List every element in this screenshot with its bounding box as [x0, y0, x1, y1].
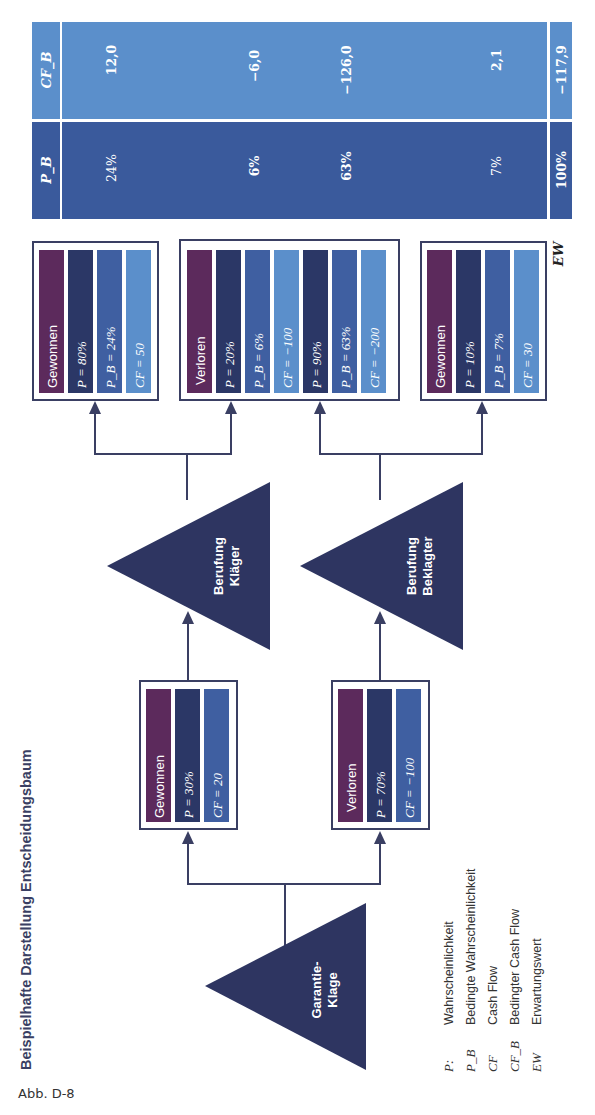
probability-value: P = 80% — [74, 341, 89, 389]
legend-text: Wahrscheinlichkeit — [442, 921, 456, 1025]
legend-symbol: P: — [441, 1060, 456, 1073]
arrow-up-icon — [476, 401, 488, 414]
connectors-level2 — [94, 412, 483, 500]
arrow-up-icon — [89, 401, 101, 414]
legend-text: Cash Flow — [486, 965, 500, 1025]
table-cfb-value: −6,0 — [247, 50, 262, 83]
outcome-label: Gewonnen — [45, 325, 60, 388]
table-header-pb: P_B — [39, 156, 55, 184]
cash-flow-value: CF = 20 — [210, 773, 225, 818]
conditional-probability-value: P_B = 6% — [251, 333, 266, 389]
probability-value: P = 90% — [309, 341, 324, 389]
arrow-up-icon — [182, 611, 194, 624]
probability-value: P = 20% — [222, 341, 237, 389]
results-table: CF_B P_B 12,0 24% −6,0 6% −126,0 63% 2,1… — [32, 22, 572, 267]
outcome-box-first-instance-won: Gewonnen P = 30% CF = 20 — [140, 681, 237, 829]
table-pb-value: 63% — [339, 151, 354, 180]
table-pb-value: 24% — [104, 154, 119, 182]
outcome-box-appeal-plaintiff-won: Gewonnen P = 80% P_B = 24% CF = 50 — [33, 242, 158, 400]
outcome-box-first-instance-lost: Verloren P = 70% CF = −100 — [332, 681, 429, 829]
probability-value: P = 10% — [462, 341, 477, 389]
arrow-up-icon — [314, 401, 326, 414]
node-label: Klage — [325, 972, 340, 1007]
table-total-pb: 100% — [554, 151, 569, 189]
legend-symbol: EW — [529, 1052, 544, 1073]
table-pb-value: 6% — [247, 156, 262, 177]
legend-text: Bedingte Wahrscheinlichkeit — [464, 868, 478, 1025]
conditional-probability-value: P_B = 7% — [491, 333, 506, 389]
node-label: Berufung — [211, 537, 226, 595]
cash-flow-value: CF = −100 — [402, 757, 417, 818]
conditional-probability-value: P_B = 24% — [103, 326, 118, 389]
node-label: Garantie- — [309, 961, 324, 1018]
table-cfb-value: −126,0 — [339, 45, 354, 95]
cash-flow-value: CF = 50 — [132, 343, 147, 388]
table-cfb-value: 2,1 — [489, 49, 504, 71]
table-pb-band — [62, 122, 547, 219]
node-label: Beklagter — [420, 536, 435, 595]
table-total-label: EW — [551, 240, 566, 267]
arrowheads-level2 — [89, 401, 488, 414]
cash-flow-value: CF = 30 — [520, 343, 535, 388]
table-cfb-band — [62, 22, 547, 119]
table-pb-value: 7% — [489, 156, 504, 176]
arrowheads-root — [182, 831, 386, 844]
legend-symbol: CF_B — [507, 1041, 522, 1072]
conditional-probability-value: P_B = 63% — [338, 326, 353, 389]
table-header-cfb: CF_B — [39, 51, 55, 88]
legend-symbol: CF — [485, 1054, 500, 1072]
outcome-label: Verloren — [344, 764, 359, 812]
legend: P: Wahrscheinlichkeit P_B Bedingte Wahrs… — [441, 868, 544, 1073]
connectors-level1-up — [188, 622, 380, 681]
diagram-title: Beispielhafte Darstellung Entscheidungsb… — [18, 749, 34, 1070]
legend-symbol: P_B — [463, 1050, 478, 1073]
table-total-cfb: −117,9 — [554, 45, 569, 95]
outcome-label: Verloren — [193, 337, 208, 385]
outcome-label: Gewonnen — [433, 325, 448, 388]
arrow-up-icon — [225, 401, 237, 414]
outcome-label: Gewonnen — [152, 755, 167, 818]
node-label: Berufung — [404, 537, 419, 595]
decision-tree-diagram: Beispielhafte Darstellung Entscheidungsb… — [0, 0, 595, 1115]
arrow-up-icon — [182, 831, 194, 844]
probability-value: P = 70% — [373, 771, 388, 819]
table-cfb-value: 12,0 — [104, 44, 119, 75]
cash-flow-value: CF = −100 — [280, 327, 295, 388]
outcome-box-appeal-defendant-won: Gewonnen P = 10% P_B = 7% CF = 30 — [421, 242, 546, 400]
figure-caption: Abb. D-8 — [18, 1086, 75, 1101]
node-appeal-defendant: Berufung Beklagter — [300, 482, 463, 650]
arrow-up-icon — [374, 831, 386, 844]
node-label: Kläger — [227, 546, 242, 586]
probability-value: P = 30% — [181, 771, 196, 819]
arrow-up-icon — [374, 611, 386, 624]
cash-flow-value: CF = −200 — [367, 327, 382, 388]
legend-text: Erwartungswert — [530, 938, 544, 1025]
outcome-box-lost-combined: Verloren P = 20% P_B = 6% CF = −100 P = … — [180, 240, 399, 400]
legend-text: Bedingter Cash Flow — [508, 908, 522, 1025]
